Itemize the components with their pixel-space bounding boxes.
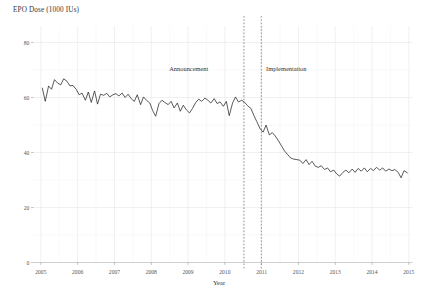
y-tick-label: 20 [24, 205, 30, 211]
minor-gridlines [34, 26, 413, 263]
chart-container: EPO Dose (1000 IUs) 020406080 2005200620… [0, 0, 424, 294]
major-gridlines [34, 26, 413, 263]
event-vertical-lines [244, 16, 261, 270]
x-tick-label: 2014 [366, 269, 377, 275]
x-tick-label: 2015 [403, 269, 414, 275]
x-axis-ticks: 2005200620072008200920102011201220132014… [35, 263, 414, 275]
y-axis-ticks: 020406080 [24, 40, 34, 266]
x-tick-label: 2005 [35, 269, 46, 275]
x-tick-label: 2011 [256, 269, 267, 275]
annotation-label-implementation: Implementation [266, 65, 307, 72]
x-tick-label: 2006 [72, 269, 83, 275]
x-tick-label: 2009 [182, 269, 193, 275]
annotation-labels: AnnouncementImplementation [169, 65, 307, 72]
y-tick-label: 60 [24, 95, 30, 101]
line-chart-plot: 020406080 200520062007200820092010201120… [0, 0, 424, 294]
y-tick-label: 40 [24, 150, 30, 156]
x-tick-label: 2010 [219, 269, 230, 275]
x-tick-label: 2013 [330, 269, 341, 275]
x-tick-label: 2007 [109, 269, 120, 275]
annotation-label-announcement: Announcement [169, 65, 208, 72]
x-axis-title: Year [213, 279, 226, 286]
x-tick-label: 2008 [146, 269, 157, 275]
y-tick-label: 80 [24, 40, 30, 46]
x-tick-label: 2012 [293, 269, 304, 275]
y-tick-label: 0 [27, 260, 30, 266]
